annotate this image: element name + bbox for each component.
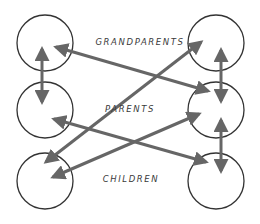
grandparents-label: GRANDPARENTS <box>95 37 184 47</box>
arrow-right-grandparent-left-child <box>46 42 201 162</box>
parents-label: PARENTS <box>105 104 155 114</box>
right-parent-node <box>188 82 244 138</box>
family-diagram: GRANDPARENTS PARENTS CHILDREN <box>0 0 260 224</box>
left-child-node <box>17 153 73 209</box>
left-parent-node <box>17 82 73 138</box>
children-label: CHILDREN <box>103 174 160 184</box>
arrow-left-parent-right-child <box>54 119 206 162</box>
right-grandparent-node <box>188 15 244 71</box>
left-grandparent-node <box>17 15 73 71</box>
right-child-node <box>188 153 244 209</box>
